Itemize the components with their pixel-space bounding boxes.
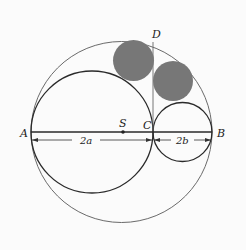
- label-s: S: [119, 117, 127, 130]
- label-2a: 2a: [79, 135, 92, 146]
- label-d: D: [151, 28, 161, 41]
- arbelos-diagram: A B C D S 2a 2b: [0, 0, 246, 250]
- point-s: [121, 130, 125, 134]
- twin-circle-left: [113, 40, 154, 81]
- label-2b: 2b: [175, 135, 189, 146]
- label-a: A: [19, 127, 28, 140]
- diagram-svg: A B C D S 2a 2b: [0, 0, 246, 250]
- label-b: B: [216, 127, 225, 140]
- label-c: C: [143, 119, 152, 132]
- twin-circle-right: [153, 61, 193, 101]
